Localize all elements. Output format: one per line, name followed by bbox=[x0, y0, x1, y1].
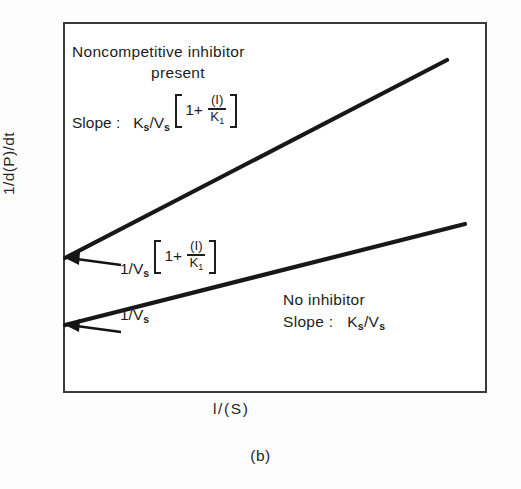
slope-ks: K bbox=[133, 114, 143, 131]
bracket-right-icon bbox=[209, 240, 216, 274]
line-noncompetitive-inhibitor bbox=[65, 60, 447, 258]
no-inhibitor-line1: No inhibitor bbox=[283, 291, 365, 308]
intercept-bracket-group: 1+ (I) K1 bbox=[153, 240, 217, 274]
slope-vs-subscript: s bbox=[164, 121, 170, 133]
intercept-uninhibited-subscript: s bbox=[143, 313, 149, 325]
bracket-fraction: (I) K1 bbox=[208, 93, 226, 126]
annotation-inhibitor-title: Noncompetitive inhibitor present bbox=[72, 42, 322, 83]
annotation-inhibitor-title-line1: Noncompetitive inhibitor bbox=[72, 43, 245, 60]
intercept-inhibited-subscript: s bbox=[143, 267, 149, 279]
x-axis-title: l/(S) bbox=[213, 400, 249, 418]
bracket-one-plus: 1+ bbox=[185, 101, 203, 118]
figure-page: Noncompetitive inhibitor present Slope :… bbox=[0, 0, 521, 489]
annotation-no-inhibitor: No inhibitor Slope : Ks/Vs bbox=[283, 290, 385, 333]
bracket-fraction: (I) K1 bbox=[187, 239, 205, 272]
no-inhibitor-slope-prefix: Slope : bbox=[283, 313, 333, 330]
bracket-one-plus: 1+ bbox=[164, 247, 182, 264]
annotation-inhibitor-title-line2: present bbox=[72, 63, 284, 82]
slope-vs: /V bbox=[149, 114, 164, 131]
bracket-right-icon bbox=[230, 94, 237, 128]
no-inhibitor-ks: K bbox=[347, 313, 358, 330]
intercept-uninhibited-label: 1/V bbox=[120, 306, 143, 323]
slope-bracket-group: 1+ (I) K1 bbox=[174, 94, 238, 128]
no-inhibitor-slope: Slope : Ks/Vs bbox=[283, 312, 385, 333]
bracket-left-icon bbox=[175, 94, 182, 128]
annotation-intercept-uninhibited: 1/Vs bbox=[120, 305, 149, 326]
bracket-numerator: (I) bbox=[187, 239, 205, 253]
slope-label-prefix: Slope : bbox=[72, 114, 120, 131]
bracket-numerator: (I) bbox=[208, 93, 226, 107]
no-inhibitor-vs-subscript: s bbox=[379, 320, 385, 332]
annotation-intercept-inhibited: 1/Vs 1+ (I) K1 bbox=[120, 240, 217, 280]
bracket-left-icon bbox=[154, 240, 161, 274]
bracket-denominator: K1 bbox=[208, 108, 226, 126]
annotation-slope-inhibited: Slope : Ks/Vs 1+ (I) K1 bbox=[72, 94, 238, 134]
intercept-inhibited-prefix: 1/V bbox=[120, 260, 143, 277]
figure-caption: (b) bbox=[0, 447, 521, 465]
no-inhibitor-vs: /V bbox=[364, 313, 379, 330]
y-axis-title: 1/d(P)/dt bbox=[0, 35, 18, 195]
bracket-denominator: K1 bbox=[187, 254, 205, 272]
